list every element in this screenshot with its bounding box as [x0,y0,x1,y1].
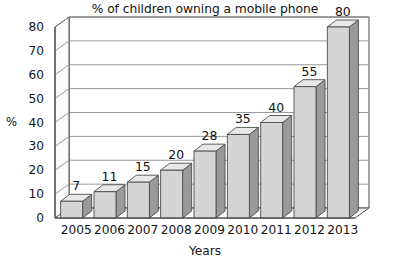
bar-value-label: 20 [156,149,196,161]
bar-2005 [61,194,92,218]
bar-2008 [161,163,192,218]
bar-2009 [194,144,225,218]
y-tick-0: 0 [14,212,44,224]
y-tick-70: 70 [14,45,44,57]
bar-chart: % of children owning a mobile phone % Ye… [0,0,410,268]
bar-value-label: 15 [123,161,163,173]
y-tick-40: 40 [14,117,44,129]
bar-2007 [127,175,158,218]
y-tick-30: 30 [14,140,44,152]
y-tick-20: 20 [14,164,44,176]
bar-value-label: 55 [290,66,330,78]
y-tick-60: 60 [14,69,44,81]
bar-value-label: 35 [223,113,263,125]
bar-value-label: 80 [323,6,363,18]
y-tick-10: 10 [14,188,44,200]
bar-value-label: 40 [256,102,296,114]
x-axis-label: Years [0,245,410,257]
y-tick-80: 80 [14,21,44,33]
y-tick-50: 50 [14,93,44,105]
bar-2011 [261,116,292,219]
bar-2012 [294,80,325,218]
bar-2013 [327,20,358,218]
x-tick-2013: 2013 [321,224,365,236]
bar-2010 [227,127,258,218]
bar-2006 [94,185,125,218]
bar-value-label: 28 [190,130,230,142]
